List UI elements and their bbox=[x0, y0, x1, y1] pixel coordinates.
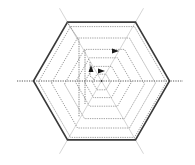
axes-group bbox=[17, 8, 183, 153]
hexagon-spiral-diagram bbox=[0, 0, 195, 165]
arrow-right-icon bbox=[98, 69, 105, 74]
center-point bbox=[101, 80, 103, 82]
inner-hexagon bbox=[52, 38, 156, 128]
inner-hexagon bbox=[65, 49, 145, 118]
inner-hexagon bbox=[76, 58, 132, 106]
